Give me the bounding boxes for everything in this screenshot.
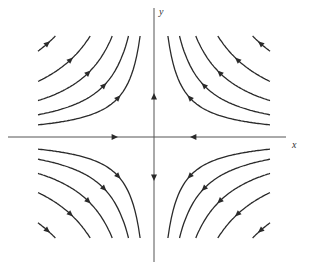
axis-flow-arrow-icon: [190, 134, 196, 140]
trajectory-curve: [196, 173, 270, 238]
trajectory-curve: [196, 36, 270, 101]
x-axis-label: x: [292, 139, 296, 150]
axis-flow-arrow-icon: [112, 134, 118, 140]
trajectory-curve: [180, 159, 271, 238]
trajectory-curve: [38, 159, 129, 238]
phase-portrait: [0, 0, 310, 273]
y-axis-label: y: [159, 6, 163, 17]
trajectory-curve: [38, 36, 112, 101]
axis-flow-arrow-icon: [151, 93, 157, 99]
trajectory-curve: [38, 173, 112, 238]
trajectory-curve: [38, 36, 129, 115]
axis-flow-arrow-icon: [151, 175, 157, 181]
trajectory-curve: [180, 36, 271, 115]
